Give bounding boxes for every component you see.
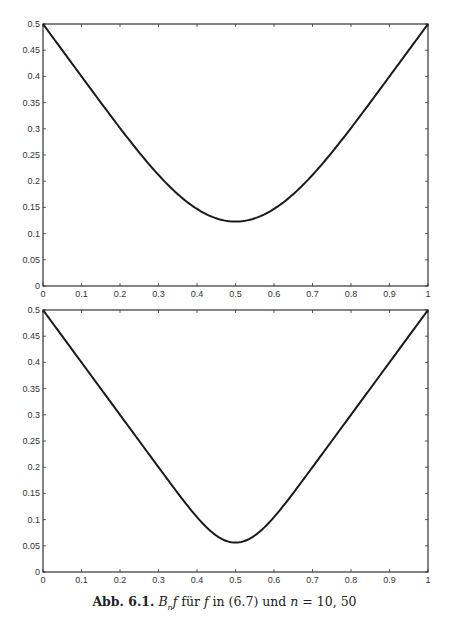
y-tick-label: 0.35: [22, 98, 40, 108]
x-tick-label: 0.9: [383, 575, 396, 585]
y-tick-label: 0.45: [22, 331, 40, 341]
x-tick-label: 0.4: [191, 575, 204, 585]
caption-fuer: für: [177, 594, 204, 609]
x-tick-label: 0.6: [268, 575, 281, 585]
x-tick-label: 1: [425, 289, 430, 299]
y-tick-label: 0: [35, 281, 40, 291]
x-tick-label: 0: [40, 289, 45, 299]
y-tick-label: 0.15: [22, 488, 40, 498]
y-tick-label: 0.4: [27, 71, 40, 81]
y-tick-label: 0.3: [27, 124, 40, 134]
x-tick-label: 0.1: [75, 289, 88, 299]
y-tick-label: 0.05: [22, 255, 40, 265]
y-tick-label: 0.05: [22, 541, 40, 551]
figure-caption: Abb. 6.1. Bnf für f in (6.7) und n = 10,…: [0, 594, 449, 612]
y-tick-label: 0.3: [27, 410, 40, 420]
y-tick-label: 0.2: [27, 176, 40, 186]
x-tick-label: 0.5: [229, 289, 242, 299]
axes-box: [43, 24, 428, 286]
y-tick-label: 0.35: [22, 384, 40, 394]
caption-label: Abb. 6.1.: [92, 594, 154, 609]
y-tick-label: 0.5: [27, 305, 40, 315]
series-line: [43, 24, 428, 222]
x-tick-label: 0.3: [152, 289, 165, 299]
figure: 00.10.20.30.40.50.60.70.80.9100.050.10.1…: [0, 0, 449, 619]
caption-b: B: [158, 594, 167, 609]
y-tick-label: 0.5: [27, 19, 40, 29]
x-tick-label: 0.9: [383, 289, 396, 299]
x-tick-label: 0.6: [268, 289, 281, 299]
x-tick-label: 0.7: [306, 575, 319, 585]
y-tick-label: 0.25: [22, 436, 40, 446]
y-tick-label: 0.1: [27, 229, 40, 239]
y-tick-label: 0.1: [27, 515, 40, 525]
y-tick-label: 0.25: [22, 150, 40, 160]
y-tick-label: 0.4: [27, 357, 40, 367]
x-tick-label: 0.4: [191, 289, 204, 299]
x-tick-label: 0: [40, 575, 45, 585]
caption-values: = 10, 50: [298, 594, 356, 609]
series-line: [43, 310, 428, 543]
x-tick-label: 0.5: [229, 575, 242, 585]
chart-1: 00.10.20.30.40.50.60.70.80.9100.050.10.1…: [22, 19, 430, 299]
x-tick-label: 0.2: [114, 289, 127, 299]
x-tick-label: 0.3: [152, 575, 165, 585]
x-tick-label: 0.8: [345, 575, 358, 585]
x-tick-label: 0.2: [114, 575, 127, 585]
y-tick-label: 0: [35, 567, 40, 577]
caption-in: in (6.7) und: [209, 594, 291, 609]
x-tick-label: 1: [425, 575, 430, 585]
chart-2: 00.10.20.30.40.50.60.70.80.9100.050.10.1…: [22, 305, 430, 585]
x-tick-label: 0.7: [306, 289, 319, 299]
y-tick-label: 0.45: [22, 45, 40, 55]
axes-box: [43, 310, 428, 572]
y-tick-label: 0.15: [22, 202, 40, 212]
x-tick-label: 0.8: [345, 289, 358, 299]
x-tick-label: 0.1: [75, 575, 88, 585]
y-tick-label: 0.2: [27, 462, 40, 472]
